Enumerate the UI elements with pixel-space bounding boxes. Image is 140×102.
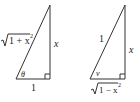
left-radicand: 1 + x bbox=[9, 35, 30, 46]
right-exponent: 2 bbox=[118, 82, 121, 88]
right-radicand: 1 − x bbox=[99, 85, 118, 95]
left-triangle: 1 + x 2 x 1 θ bbox=[1, 5, 59, 93]
left-hypotenuse-label: 1 + x 2 bbox=[1, 33, 33, 46]
right-adjacent-label: 1 − x 2 bbox=[91, 82, 121, 95]
left-opposite-label: x bbox=[53, 38, 59, 49]
trig-triangles-diagram: 1 + x 2 x 1 θ 1 x v 1 − x 2 bbox=[0, 0, 140, 102]
left-adjacent-label: 1 bbox=[31, 82, 36, 93]
right-triangle: 1 x v 1 − x 2 bbox=[90, 5, 134, 95]
right-triangle-outline bbox=[90, 5, 125, 79]
right-opposite-label: x bbox=[128, 44, 134, 55]
right-angle-label: v bbox=[96, 69, 100, 78]
right-hypotenuse-label: 1 bbox=[99, 33, 104, 44]
left-angle-label: θ bbox=[21, 70, 25, 79]
right-right-angle-marker bbox=[120, 74, 125, 79]
left-exponent: 2 bbox=[30, 33, 33, 39]
left-right-angle-marker bbox=[45, 74, 50, 79]
